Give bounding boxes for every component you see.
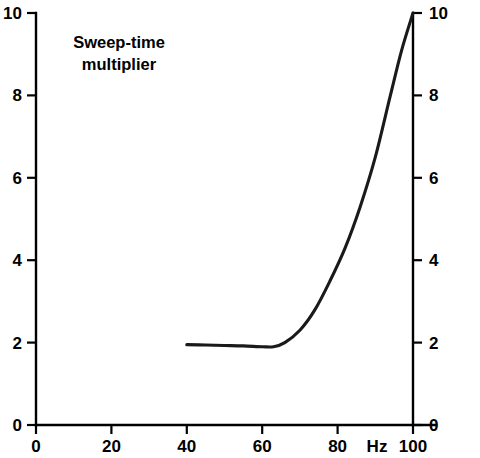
- sweep-time-multiplier-chart: 10 8 6 4 2 0 10 8 6 4 2 0 0 20 40 60 80: [0, 0, 480, 458]
- bottom-tick-label-80: 80: [328, 437, 347, 456]
- left-tick-label-4: 4: [13, 251, 23, 270]
- bottom-tick-label-100: 100: [399, 437, 427, 456]
- chart-figure: 10 8 6 4 2 0 10 8 6 4 2 0 0 20 40 60 80: [0, 0, 480, 458]
- bottom-tick-label-20: 20: [102, 437, 121, 456]
- right-tick-label-4: 4: [429, 251, 439, 270]
- left-tick-label-2: 2: [13, 334, 22, 353]
- plot-annotation-line-1: Sweep-time: [73, 33, 165, 51]
- bottom-tick-label-40: 40: [177, 437, 196, 456]
- left-tick-label-6: 6: [13, 169, 22, 188]
- right-tick-label-8: 8: [429, 86, 438, 105]
- right-tick-label-6: 6: [429, 169, 438, 188]
- bottom-tick-label-60: 60: [253, 437, 272, 456]
- right-tick-label-10: 10: [429, 4, 448, 23]
- bottom-tick-label-0: 0: [31, 437, 40, 456]
- x-axis-unit-label: Hz: [367, 437, 388, 456]
- left-tick-label-8: 8: [13, 86, 22, 105]
- right-tick-label-2: 2: [429, 334, 438, 353]
- left-tick-label-0: 0: [13, 416, 22, 435]
- left-tick-label-10: 10: [3, 4, 22, 23]
- plot-annotation-line-2: multiplier: [82, 55, 157, 73]
- sweep-time-multiplier-curve: [187, 13, 413, 347]
